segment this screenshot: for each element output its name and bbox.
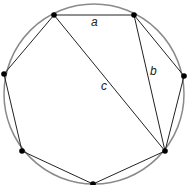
labels-group: abc [91,15,157,93]
vertex-v6 [19,148,25,154]
heptagon-diagram: abc [0,0,188,185]
vertex-v7 [1,71,7,77]
vertex-v2 [131,12,137,18]
vertex-v4 [162,148,168,154]
vertices-group [1,12,187,185]
circumscribed-circle [4,4,184,184]
diagonals-group [54,15,165,151]
diagonal-c [54,15,165,151]
label-a: a [91,15,98,29]
diagonal-b [134,15,165,151]
vertex-v5 [90,181,96,185]
label-b: b [150,64,157,78]
vertex-v3 [181,73,187,79]
label-c: c [101,79,107,93]
vertex-v1 [51,12,57,18]
